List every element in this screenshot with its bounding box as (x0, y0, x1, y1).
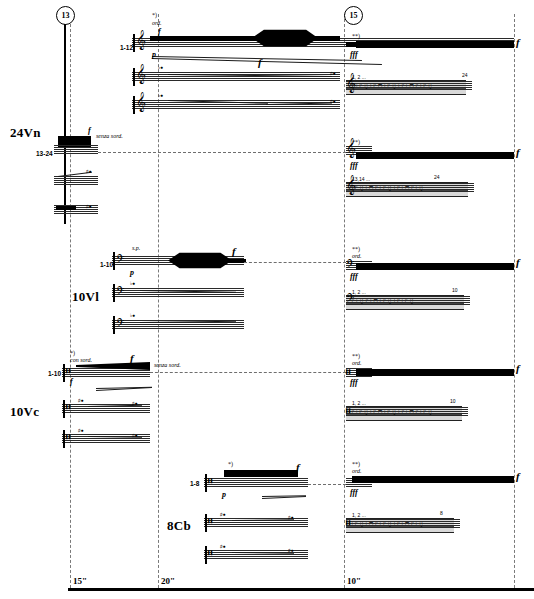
player-range-vn-upper: 1-12 (120, 44, 133, 51)
staff-bar-vc-1 (63, 364, 65, 382)
technique-vc-con-sord: con sord. (70, 357, 92, 363)
instrument-label-cellos: 10Vc (10, 404, 39, 420)
dynamic-vl-f-right: f (516, 256, 520, 268)
note-head-vn-left-2: ♯● (86, 168, 92, 174)
dynamic-cb-fff: fff (350, 488, 358, 497)
bass-clef-vc-3: 𝄥 (66, 430, 70, 444)
cluster-band-cb (224, 470, 298, 477)
bass-clef-cb-1: 𝄥 (208, 474, 212, 488)
time-guide-10 (344, 14, 345, 588)
staff-vn-strip-2 (346, 183, 474, 192)
alto-clef-vl-3: 𝄢 (116, 318, 124, 331)
dynamic-vl-f: f (232, 245, 236, 257)
staff-vl-2 (112, 288, 244, 297)
staff-cb-strip (346, 519, 460, 528)
cluster-band-cb-right (352, 476, 514, 483)
technique-vn-senza-sord: senza sord. (96, 133, 123, 139)
cluster-band-vn-1b (314, 36, 340, 41)
rehearsal-mark-13-label: 13 (62, 11, 70, 20)
time-label-15: 15" (73, 576, 87, 586)
dynamic-cb-f-right: f (516, 470, 520, 482)
treble-clef-vn-strip-1: 𝄞 (346, 74, 356, 91)
rehearsal-mark-15-label: 15 (350, 11, 358, 20)
tie-guide-vc-1 (150, 372, 346, 373)
footnote-vl-right: **) (352, 246, 360, 252)
time-label-10: 10" (347, 576, 361, 586)
tie-guide-cb (308, 484, 346, 485)
end-num-vl: 10 (452, 287, 458, 293)
note-head-vl-3: ♭● (130, 312, 135, 318)
dynamic-vc-f2: f (70, 377, 73, 386)
instrument-label-violas: 10Vl (72, 289, 99, 305)
note-head-vn-3-start: ♭● (158, 92, 163, 98)
note-head-vc-2: ♯● (78, 397, 84, 403)
technique-vn-ord: ord. (152, 20, 162, 26)
footnote-cb: *) (228, 461, 233, 467)
staff-vn-left-1 (54, 145, 98, 154)
dynamic-vn-right-fff: fff (350, 50, 358, 59)
end-num-vc: 10 (450, 398, 456, 404)
footnote-cb-right: **) (352, 461, 360, 467)
cluster-band-vl-right (356, 263, 514, 270)
footnote-vn-right: **) (352, 33, 360, 39)
bass-clef-cb-2: 𝄥 (208, 514, 212, 528)
note-head-cb-3: ♯● (220, 543, 226, 549)
technique-vc-ord: ord. (352, 360, 362, 366)
staff-bar-vc-3 (63, 430, 65, 448)
staff-bar-cb-2 (205, 514, 207, 532)
staff-bar-vl-2 (113, 284, 115, 302)
alto-clef-vl-right: 𝄢 (346, 259, 354, 272)
alto-clef-vl-2: 𝄢 (116, 286, 124, 299)
cluster-band-vn-lower-right (356, 152, 514, 159)
alto-clef-vl-1: 𝄢 (116, 254, 124, 267)
instrument-label-violins: 24Vn (10, 125, 41, 141)
treble-clef-vn-1: 𝄞 (136, 31, 146, 48)
treble-clef-vn-strip-2: 𝄞 (346, 176, 356, 193)
dynamic-vn-left-f: f (88, 126, 91, 135)
dynamic-vn-lower-fff: fff (350, 161, 358, 170)
staff-bar-vn-2 (133, 68, 135, 86)
dynamic-vc-f: f (130, 352, 134, 364)
violin-entry-stem (64, 24, 66, 224)
dynamic-vc-f-right: f (516, 362, 520, 374)
staff-vc-strip (346, 407, 468, 416)
treble-clef-vn-3: 𝄞 (136, 93, 146, 110)
staff-vn-left-2 (54, 176, 98, 185)
technique-cb-ord: ord. (352, 468, 362, 474)
note-head-vn-2-end: ♯● (330, 70, 336, 76)
bass-clef-vc-1: 𝄥 (66, 364, 70, 378)
staff-vl-strip (346, 296, 470, 305)
cluster-band-vn-1a (150, 36, 258, 41)
note-head-vn-2-start: ♭● (158, 64, 163, 70)
dynamic-vn-1-f-end: f (258, 56, 262, 68)
treble-clef-vn-lower-right: 𝄞 (346, 139, 356, 156)
staff-cb-1 (204, 478, 308, 487)
end-num-cb: 8 (440, 510, 443, 516)
note-head-vc-2-end: ♯● (132, 400, 138, 406)
technique-vc-senza-sord: senza sord. (154, 362, 181, 368)
bass-clef-vc-2: 𝄥 (66, 400, 70, 414)
note-head-vl-2: ♭● (130, 280, 135, 286)
dynamic-cb-p: p (222, 490, 226, 499)
cluster-band-vc-right (356, 369, 514, 376)
staff-bar-vl-1 (113, 252, 115, 270)
score-page: 13 15 24Vn *) ord. f 𝄞 1-12 p f **) fff … (0, 0, 534, 599)
cluster-lens-vl-1 (168, 252, 232, 269)
dynamic-vn-upper-f: f (158, 27, 161, 36)
note-head-cb-2: ♯● (220, 511, 226, 517)
note-head-vc-3-end: ♯● (132, 432, 138, 438)
staff-bar-vn-3 (133, 96, 135, 114)
player-range-vc: 1-10 (48, 370, 61, 377)
player-range-cb: 1-8 (190, 480, 199, 487)
bass-clef-cb-strip: 𝄥 (346, 516, 350, 530)
dynamic-vl-fff: fff (350, 272, 358, 281)
note-head-cb-2-end: ♯● (288, 514, 294, 520)
cluster-band-vn-right-tail (346, 42, 358, 47)
timeline-bar (68, 588, 534, 591)
rehearsal-mark-15: 15 (344, 6, 363, 25)
cluster-band-vn-right (356, 41, 514, 48)
tie-guide-vn-left (98, 152, 346, 153)
staff-bar-vl-3 (113, 316, 115, 334)
instrument-label-basses: 8Cb (167, 518, 191, 534)
dynamic-vc-fff: fff (350, 378, 358, 387)
